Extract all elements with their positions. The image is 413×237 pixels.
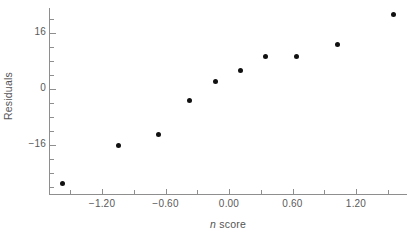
y-axis-minor-tick [49,103,54,104]
x-axis-minor-tick [134,190,135,195]
y-axis-minor-tick [49,117,54,118]
data-point [116,143,121,148]
x-axis-tick-label: 0.00 [219,198,239,209]
data-point [213,79,218,84]
data-point [60,181,65,186]
y-axis-major-tick [49,145,56,146]
x-axis-minor-tick [70,190,71,195]
x-axis-minor-tick [388,190,389,195]
y-axis-minor-tick [49,187,54,188]
y-axis-tick-label: 16 [34,26,46,37]
y-axis-line [49,8,50,195]
x-axis-major-tick [166,189,167,195]
data-point [263,54,268,59]
x-axis-title-rest: score [216,218,246,230]
y-axis-major-tick [49,89,56,90]
y-axis-minor-tick [49,75,54,76]
y-axis-tick-label: 0 [40,82,46,93]
data-point [238,68,243,73]
y-axis-minor-tick [49,159,54,160]
x-axis-tick-label: 0.60 [282,198,302,209]
x-axis-major-tick [356,189,357,195]
y-axis-minor-tick [49,61,54,62]
y-axis-tick-label: −16 [28,138,46,149]
x-axis-tick-label: −1.20 [89,198,115,209]
x-axis-major-tick [229,189,230,195]
data-point [335,42,340,47]
x-axis-minor-tick [324,190,325,195]
x-axis-minor-tick [197,190,198,195]
x-axis-major-tick [293,189,294,195]
y-axis-minor-tick [49,173,54,174]
x-axis-minor-tick [261,190,262,195]
y-axis-minor-tick [49,131,54,132]
y-axis-minor-tick [49,19,54,20]
data-point [156,132,161,137]
x-axis-tick-label: 1.20 [346,198,366,209]
data-point [391,12,396,17]
data-point [187,98,192,103]
residuals-vs-n-score-scatter-chart: 160−16 −1.20−0.600.000.601.20 Residuals … [0,0,413,237]
y-axis-minor-tick [49,47,54,48]
data-point [294,54,299,59]
x-axis-title: n score [49,218,407,230]
y-axis-major-tick [49,33,56,34]
x-axis-major-tick [102,189,103,195]
x-axis-tick-label: −0.60 [152,198,178,209]
y-axis-title: Residuals [2,56,16,136]
